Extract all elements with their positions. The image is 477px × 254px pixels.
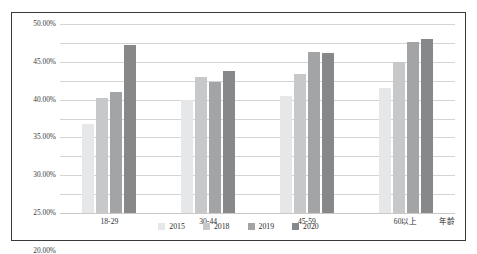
bar-group [159,24,258,213]
y-axis-tick-label: 40.00% [33,96,56,103]
bar-2015-45-59[interactable] [280,96,292,213]
bar-2020-30-44[interactable] [223,71,235,213]
bar-2015-18-29[interactable] [82,124,94,213]
bar-2018-45-59[interactable] [294,74,306,213]
bar-2020-18-29[interactable] [124,45,136,213]
legend-label-2015: 2015 [169,223,185,231]
legend-swatch-2018 [203,223,210,230]
plot-area: 0.00%5.00%10.00%15.00%20.00%25.00%30.00%… [60,24,455,213]
bar-2018-30-44[interactable] [195,77,207,213]
chart-legend: 2015201820192020 [12,223,465,231]
bar-2019-30-44[interactable] [209,82,221,213]
bars-layer [60,24,455,213]
y-axis-tick-label: 25.00% [33,209,56,216]
chart-container: 0.00%5.00%10.00%15.00%20.00%25.00%30.00%… [11,12,466,241]
legend-swatch-2019 [248,223,255,230]
bar-2015-30-44[interactable] [181,100,193,213]
y-axis-tick-label: 45.00% [33,58,56,65]
legend-label-2020: 2020 [303,223,319,231]
bar-2019-45-59[interactable] [308,52,320,213]
y-axis-tick-label: 35.00% [33,134,56,141]
bar-2018-60以上[interactable] [393,62,405,213]
gridline: 0.00% [60,213,455,214]
bar-group [258,24,357,213]
legend-label-2018: 2018 [214,223,230,231]
legend-item-2019[interactable]: 2019 [248,223,275,231]
y-axis-tick-label: 50.00% [33,20,56,27]
bar-2015-60以上[interactable] [379,88,391,213]
y-axis-tick-label: 20.00% [33,247,56,254]
legend-swatch-2020 [292,223,299,230]
legend-label-2019: 2019 [259,223,275,231]
bar-2019-18-29[interactable] [110,92,122,213]
bar-2020-45-59[interactable] [322,53,334,213]
bar-2020-60以上[interactable] [421,39,433,213]
legend-item-2020[interactable]: 2020 [292,223,319,231]
bar-2018-18-29[interactable] [96,98,108,213]
bar-group [60,24,159,213]
legend-item-2015[interactable]: 2015 [158,223,185,231]
bar-group [356,24,455,213]
bar-2019-60以上[interactable] [407,42,419,213]
legend-item-2018[interactable]: 2018 [203,223,230,231]
legend-swatch-2015 [158,223,165,230]
y-axis-tick-label: 30.00% [33,171,56,178]
